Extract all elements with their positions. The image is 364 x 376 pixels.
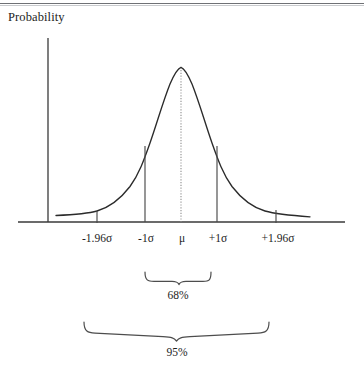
- tick-label-minus-1-sigma: -1σ: [138, 232, 154, 244]
- brace-95: [84, 322, 269, 341]
- tick-label-mu: μ: [179, 232, 185, 244]
- brace-label-95-percent: 95%: [166, 346, 187, 358]
- bell-curve: [56, 67, 310, 217]
- brace-label-68-percent: 68%: [167, 289, 188, 301]
- tick-label-plus-1-sigma: +1σ: [209, 232, 227, 244]
- tick-label-plus-1.96-sigma: +1.96σ: [262, 232, 295, 244]
- tick-label-minus-1.96-sigma: -1.96σ: [82, 232, 112, 244]
- plot-area: [0, 0, 364, 376]
- normal-distribution-figure: Probability -1.96σ -1σ μ +1σ +1.96σ 68% …: [0, 0, 364, 376]
- brace-68: [145, 272, 211, 285]
